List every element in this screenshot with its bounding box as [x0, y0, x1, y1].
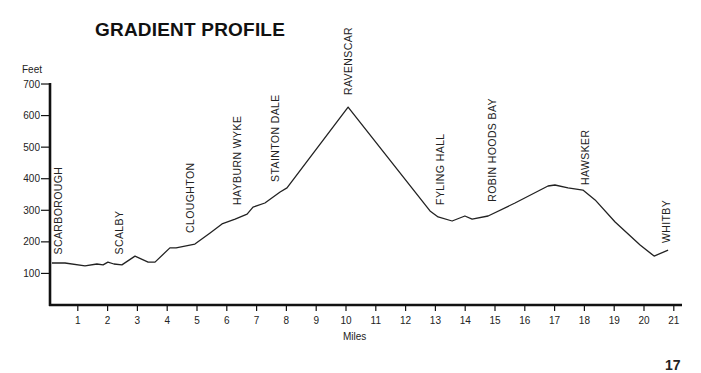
place-label: ROBIN HOODS BAY [486, 98, 498, 202]
place-label: STAINTON DALE [269, 94, 281, 182]
place-label: HAYBURN WYKE [231, 116, 243, 205]
x-tick-label: 18 [579, 315, 591, 326]
x-tick-label: 10 [340, 315, 352, 326]
x-tick-label: 16 [519, 315, 531, 326]
place-labels: SCARBOROUGHSCALBYCLOUGHTONHAYBURN WYKEST… [52, 27, 672, 255]
x-tick-label: 20 [638, 315, 650, 326]
x-tick-label: 7 [254, 315, 260, 326]
x-tick-label: 15 [489, 315, 501, 326]
x-tick-label: 1 [75, 315, 81, 326]
place-label: RAVENSCAR [342, 27, 354, 95]
x-tick-label: 14 [460, 315, 472, 326]
x-tick-label: 13 [430, 315, 442, 326]
y-tick-label: 200 [23, 236, 40, 247]
x-tick-label: 21 [668, 315, 680, 326]
y-tick-label: 600 [23, 110, 40, 121]
place-label: SCALBY [113, 211, 125, 255]
x-tick-label: 9 [313, 315, 319, 326]
place-label: FYLING HALL [434, 133, 446, 205]
axes: 1002003004005006007001234567891011121314… [23, 79, 682, 326]
x-tick-label: 5 [194, 315, 200, 326]
x-tick-label: 11 [371, 315, 382, 326]
x-tick-label: 8 [284, 315, 290, 326]
x-tick-label: 2 [105, 315, 111, 326]
y-tick-label: 400 [23, 173, 40, 184]
place-label: SCARBOROUGH [52, 167, 64, 255]
place-label: HAWSKER [579, 129, 591, 185]
place-label: CLOUGHTON [184, 163, 196, 234]
y-tick-label: 700 [23, 79, 40, 90]
y-tick-label: 300 [23, 205, 40, 216]
y-tick-label: 100 [23, 268, 40, 279]
place-label: WHITBY [660, 200, 672, 243]
y-tick-label: 500 [23, 142, 40, 153]
x-tick-label: 19 [609, 315, 621, 326]
x-tick-label: 6 [224, 315, 230, 326]
x-tick-label: 4 [164, 315, 170, 326]
x-tick-label: 17 [549, 315, 561, 326]
elevation-profile-line [52, 107, 668, 266]
x-tick-label: 3 [135, 315, 141, 326]
x-tick-label: 12 [400, 315, 412, 326]
